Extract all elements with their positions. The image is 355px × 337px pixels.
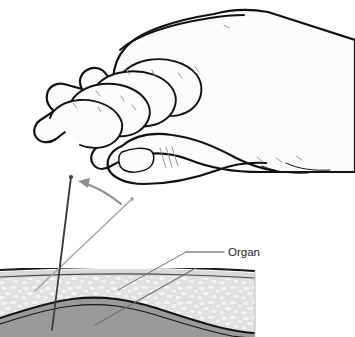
needle-vertical-hub <box>69 175 73 179</box>
thumbnail <box>119 148 154 172</box>
organ-label: Organ <box>228 246 260 258</box>
needle-angled-hub <box>130 197 134 201</box>
figure-root: Organ <box>0 0 355 337</box>
needle-angulation-figure: Organ <box>0 0 355 337</box>
